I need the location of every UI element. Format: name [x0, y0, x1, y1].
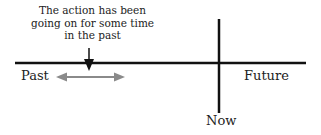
caption-line-2: going on for some time	[30, 17, 155, 30]
duration-double-arrow-icon	[56, 73, 125, 82]
now-label: Now	[206, 113, 236, 128]
tense-timeline-diagram: The action has been going on for some ti…	[0, 0, 321, 135]
action-caption: The action has been going on for some ti…	[30, 4, 155, 42]
future-label: Future	[244, 68, 289, 83]
caption-line-3: in the past	[30, 29, 155, 42]
past-label: Past	[21, 68, 49, 83]
caption-line-1: The action has been	[30, 4, 155, 17]
pointer-down-arrow-icon	[84, 48, 94, 71]
